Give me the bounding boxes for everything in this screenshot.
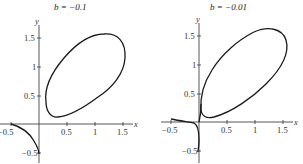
y-tick-left: −0.5 (22, 148, 37, 158)
x-tick-right: 1.5 (277, 125, 288, 135)
y-label-left: y (34, 16, 39, 26)
y-tick-right: −0.5 (182, 146, 197, 156)
x-tick-right: −0.5 (162, 125, 177, 135)
x-tick-left: 0.5 (61, 127, 72, 137)
x-tick-left: −0.5 (0, 127, 13, 137)
orbit-loop-right (201, 29, 287, 118)
y-tick-left: 0.5 (24, 91, 35, 101)
title-left: b = −0.1 (54, 2, 86, 12)
x-tick-right: 0.5 (221, 125, 232, 135)
title-right: b = −0.01 (210, 2, 247, 12)
x-tick-left: 1 (93, 127, 97, 137)
x-label-right: x (293, 117, 298, 127)
plot-right: b = −0.01 x y −0.5 0.5 1 1.5 −0.5 0.5 1 … (161, 2, 298, 163)
y-tick-right: 1.5 (184, 31, 195, 41)
plot-left: b = −0.1 x y −0.5 0.5 1 1.5 −0.5 0.5 1 1… (0, 2, 138, 163)
y-label-right: y (195, 14, 200, 24)
y-tick-right: 0.5 (184, 89, 195, 99)
x-tick-left: 1.5 (117, 127, 128, 137)
x-label-left: x (133, 119, 138, 129)
y-tick-right: 1 (192, 60, 196, 70)
y-tick-left: 1 (32, 62, 36, 72)
y-tick-left: 1.5 (24, 33, 35, 43)
figure: b = −0.1 x y −0.5 0.5 1 1.5 −0.5 0.5 1 1… (0, 0, 303, 164)
x-tick-right: 1 (253, 125, 257, 135)
orbit-loop-left (46, 34, 125, 117)
